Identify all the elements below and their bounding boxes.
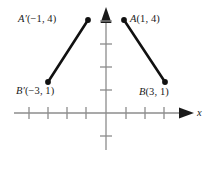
coordinate-plane-figure: A′(−1, 4) A(1, 4) B′(−3, 1) B(3, 1) x (0, 0, 208, 178)
x-axis-label: x (197, 108, 202, 119)
point-a-prime (85, 17, 91, 23)
point-a (121, 17, 127, 23)
label-b-prime-coords: (−3, 1) (25, 85, 54, 96)
label-b-prime: B′(−3, 1) (16, 86, 54, 97)
label-b-coords: (3, 1) (146, 86, 169, 97)
label-a: A(1, 4) (130, 14, 160, 25)
segment-a-prime-b-prime (48, 20, 88, 82)
x-axis-arrowhead (179, 108, 194, 119)
label-a-prime-coords: (−1, 4) (27, 13, 56, 24)
point-b (162, 79, 168, 85)
segment-a-b (124, 20, 165, 82)
label-b: B(3, 1) (139, 87, 169, 98)
label-a-coords: (1, 4) (137, 13, 160, 24)
label-a-prime: A′(−1, 4) (18, 14, 56, 25)
